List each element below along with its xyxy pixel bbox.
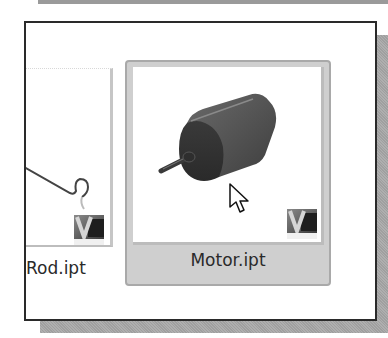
file-browser-panel: Rod.ipt xyxy=(24,21,377,321)
file-name-label: Motor.ipt xyxy=(127,250,329,270)
inventor-part-badge-icon xyxy=(74,211,104,245)
file-name-label: Rod.ipt xyxy=(26,258,86,278)
arrow-pointer-icon xyxy=(229,183,251,215)
motor-thumbnail xyxy=(133,67,324,245)
motor-part-preview-icon xyxy=(157,93,287,203)
rod-thumbnail xyxy=(24,68,113,247)
inventor-part-badge-icon xyxy=(287,205,317,239)
file-tile-rod[interactable]: Rod.ipt xyxy=(24,62,112,290)
file-tile-motor[interactable]: Motor.ipt xyxy=(125,60,331,286)
previous-figure-edge xyxy=(38,0,388,4)
screenshot-stage: Rod.ipt xyxy=(0,0,388,338)
